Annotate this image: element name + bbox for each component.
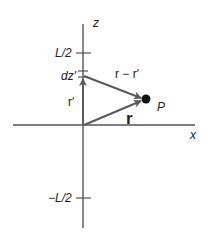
z-axis-label: z [92,16,99,30]
tick-bottom-label: −L/2 [48,191,72,205]
tick-top-label: L/2 [55,46,72,60]
line-charge-diagram: z x L/2 −L/2 dz′ r′ r − r′ r P [0,0,210,235]
r-label: r [126,109,133,128]
dz-element-label: dz′ [61,69,77,83]
point-p-dot [142,95,151,104]
r-prime-label: r′ [68,95,75,109]
r-minus-r-prime-label: r − r′ [115,67,140,81]
point-p-label: P [157,100,165,114]
x-axis-label: x [189,128,197,142]
